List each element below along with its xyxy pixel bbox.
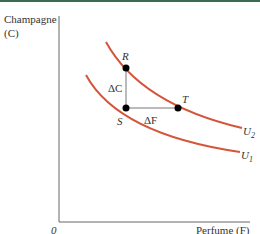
point-r [123,65,130,72]
label-t: T [182,93,189,105]
point-s [123,105,130,112]
y-axis-label: Champagne [4,13,57,25]
label-delta-c: ΔC [108,82,122,94]
label-u1: U1 [241,149,253,164]
label-delta-f: ΔF [144,114,157,126]
y-axis-label-unit: (C) [4,27,19,40]
x-axis-label: Perfume (F) [196,224,250,234]
indifference-curve-diagram: Champagne (C) R S T ΔC ΔF U2 U1 0 Perfum… [0,0,260,234]
label-s: S [117,115,123,127]
label-u2: U2 [243,125,255,140]
point-t [175,105,182,112]
label-r: R [121,50,129,62]
origin-label: 0 [51,224,57,234]
